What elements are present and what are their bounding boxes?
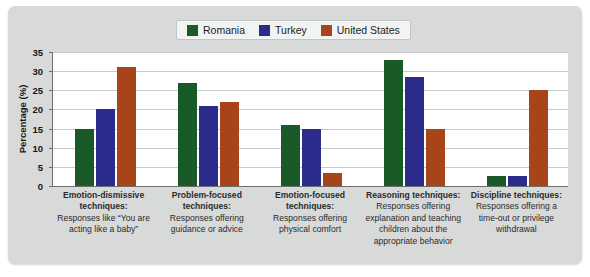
bar-turkey [199, 106, 218, 186]
category-title: Emotion-focused techniques: [261, 190, 358, 213]
category-title: Emotion-dismissive techniques: [55, 190, 152, 213]
legend-label-united-states: United States [337, 25, 400, 36]
y-tick-mark: 35 [49, 52, 53, 53]
y-tick-label: 25 [32, 85, 43, 96]
category-description: Responses offering a time-out or privile… [468, 201, 565, 235]
bar-united-states [529, 90, 548, 186]
y-tick-label: 5 [38, 161, 43, 172]
bar-romania [75, 129, 94, 186]
category-title: Discipline techniques: [468, 190, 565, 201]
legend-label-turkey: Turkey [275, 25, 307, 36]
legend-swatch-turkey [259, 25, 270, 36]
chart-panel: Romania Turkey United States Percentage … [8, 6, 582, 264]
bar-groups [54, 52, 569, 186]
bar-turkey [508, 176, 527, 186]
bar-turkey [96, 109, 115, 186]
bar-romania [281, 125, 300, 186]
y-tick-mark: 10 [49, 148, 53, 149]
bar-united-states [117, 67, 136, 186]
bar-united-states [323, 173, 342, 186]
legend-item-united-states: United States [321, 25, 400, 36]
plot-area: 05101520253035 [52, 52, 568, 187]
y-tick-label: 20 [32, 104, 43, 115]
y-tick-label: 0 [38, 181, 43, 192]
bar-group [466, 52, 569, 186]
x-axis-category-label: Reasoning techniques:Responses offering … [362, 190, 465, 247]
category-description: Responses offering physical comfort [261, 213, 358, 236]
y-tick-mark: 0 [49, 186, 53, 187]
bar-united-states [220, 102, 239, 186]
x-axis-category-label: Emotion-dismissive techniques:Responses … [52, 190, 155, 247]
category-description: Responses like “You are acting like a ba… [55, 213, 152, 236]
bar-group [157, 52, 260, 186]
bar-group [260, 52, 363, 186]
category-title: Problem-focused techniques: [158, 190, 255, 213]
y-tick-mark: 5 [49, 167, 53, 168]
y-tick-label: 10 [32, 142, 43, 153]
legend-item-romania: Romania [187, 25, 245, 36]
bar-romania [487, 176, 506, 186]
category-title: Reasoning techniques: [365, 190, 462, 201]
bar-united-states [426, 129, 445, 186]
chart-legend: Romania Turkey United States [176, 20, 411, 40]
legend-swatch-romania [187, 25, 198, 36]
category-description: Responses offering guidance or advice [158, 213, 255, 236]
bar-turkey [302, 129, 321, 186]
y-tick-mark: 20 [49, 109, 53, 110]
bar-group [363, 52, 466, 186]
legend-swatch-united-states [321, 25, 332, 36]
x-axis-category-label: Discipline techniques:Responses offering… [465, 190, 568, 247]
category-description: Responses offering explanation and teach… [365, 201, 462, 247]
bar-romania [178, 83, 197, 186]
x-axis-category-label: Emotion-focused techniques:Responses off… [258, 190, 361, 247]
plot-wrapper: 05101520253035 [52, 52, 567, 186]
bar-turkey [405, 77, 424, 186]
chart-figure: Romania Turkey United States Percentage … [0, 0, 590, 277]
y-tick-mark: 30 [49, 71, 53, 72]
legend-label-romania: Romania [203, 25, 245, 36]
y-tick-label: 15 [32, 123, 43, 134]
bar-romania [384, 60, 403, 186]
x-axis-labels: Emotion-dismissive techniques:Responses … [52, 190, 568, 247]
y-tick-mark: 25 [49, 90, 53, 91]
y-tick-label: 35 [32, 47, 43, 58]
bar-group [54, 52, 157, 186]
y-tick-label: 30 [32, 66, 43, 77]
y-axis-title: Percentage (%) [16, 52, 29, 186]
legend-item-turkey: Turkey [259, 25, 307, 36]
x-axis-category-label: Problem-focused techniques:Responses off… [155, 190, 258, 247]
y-tick-mark: 15 [49, 129, 53, 130]
